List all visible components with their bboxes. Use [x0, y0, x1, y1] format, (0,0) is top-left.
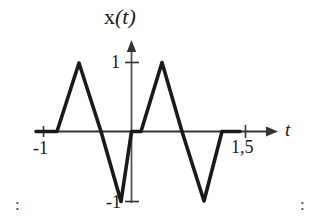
scan-artifact-right: :: [300, 196, 305, 213]
waveform-figure: x(t) 1 -1 -1 1,5 t : :: [0, 0, 318, 222]
x-tick-label-one-five: 1,5: [231, 138, 254, 156]
y-tick-label-minus-one: -1: [106, 193, 121, 211]
x-axis-arrowhead: [266, 127, 278, 137]
title-function-name: x: [104, 4, 115, 29]
scan-artifact-left: :: [15, 196, 20, 213]
title-paren-close: ): [128, 4, 135, 29]
x-axis-label: t: [285, 120, 290, 139]
y-tick-label-one: 1: [111, 53, 120, 71]
plot-title: x(t): [104, 6, 136, 28]
waveform-svg: [0, 0, 318, 222]
y-axis-arrowhead: [127, 40, 136, 52]
x-tick-label-minus-one: -1: [33, 139, 48, 157]
